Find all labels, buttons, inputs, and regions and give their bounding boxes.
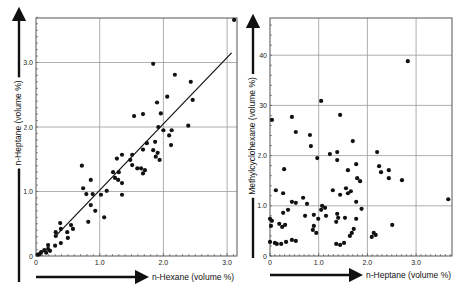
y-tick-label: 30 [259, 102, 267, 109]
data-point [58, 221, 62, 225]
data-point [309, 144, 313, 148]
x-axis-label: n-Hexane (volume %) [152, 272, 234, 282]
x-tick-label: 3.0 [222, 259, 232, 266]
data-point [346, 168, 350, 172]
data-point [154, 155, 158, 159]
x-tick-label: 0 [268, 259, 272, 266]
data-point [54, 230, 58, 234]
y-axis-label: n-Heptane (volume %) [13, 80, 23, 165]
data-point [328, 152, 332, 156]
data-point [153, 140, 157, 144]
data-point [111, 170, 115, 174]
data-point [319, 208, 323, 212]
heptane-methylcyclohexane-scatter: 01.02.03.001.02.03040Methylcyclohexane (… [246, 18, 452, 280]
data-point [59, 241, 63, 245]
data-point [335, 150, 339, 154]
data-point [130, 163, 134, 167]
x-tick-label: 2.0 [159, 259, 169, 266]
data-point [335, 212, 339, 216]
data-point [277, 222, 281, 226]
data-point [290, 200, 294, 204]
data-point [346, 191, 350, 195]
data-point [151, 148, 155, 152]
data-point [65, 230, 69, 234]
x-tick-label: 2.0 [363, 259, 373, 266]
data-point [358, 179, 362, 183]
data-point [232, 18, 236, 22]
data-point [268, 240, 272, 244]
data-point [159, 111, 163, 115]
data-point [173, 73, 177, 77]
data-point [281, 191, 285, 195]
data-point [274, 188, 278, 192]
data-point [379, 170, 383, 174]
y-tick-label: 2.0 [257, 152, 267, 159]
data-point [157, 158, 161, 162]
data-point [139, 166, 143, 170]
data-point [316, 217, 320, 221]
y-tick-label: 2.0 [23, 124, 33, 131]
y-tick-label: 1.0 [257, 202, 267, 209]
data-point [156, 125, 160, 129]
data-point [169, 143, 173, 147]
figure: 01.02.03.001.02.03.0n-Heptane (volume %)… [0, 0, 467, 293]
hexane-heptane-scatter: 01.02.03.001.02.03.0n-Heptane (volume %)… [12, 14, 237, 282]
data-point [324, 214, 328, 218]
data-point [170, 128, 174, 132]
data-point [331, 188, 335, 192]
data-point [128, 158, 132, 162]
x-tick-label: 0 [34, 259, 38, 266]
x-tick-label: 1.0 [95, 259, 105, 266]
data-point [71, 227, 75, 231]
data-point [286, 208, 290, 212]
data-point [370, 235, 374, 239]
data-point [400, 178, 404, 182]
data-point [351, 139, 355, 143]
data-point [145, 141, 149, 145]
data-point [311, 228, 315, 232]
data-point [275, 242, 279, 246]
data-point [120, 181, 124, 185]
data-point [294, 130, 298, 134]
data-point [165, 95, 169, 99]
data-point [270, 118, 274, 122]
data-point [348, 234, 352, 238]
data-point [303, 214, 307, 218]
data-point [186, 124, 190, 128]
data-point [294, 201, 298, 205]
data-point [352, 227, 356, 231]
data-point [156, 151, 160, 155]
data-point [305, 202, 309, 206]
data-point [342, 241, 346, 245]
data-point [161, 128, 165, 132]
data-point [141, 171, 145, 175]
data-point [86, 220, 90, 224]
data-point [189, 80, 193, 84]
data-point [312, 224, 316, 228]
y-tick-label: 0 [29, 253, 33, 260]
data-point [290, 238, 294, 242]
data-point [319, 99, 323, 103]
data-point [375, 150, 379, 154]
data-point [374, 233, 378, 237]
data-point [44, 251, 48, 255]
data-point [314, 231, 318, 235]
data-point [48, 249, 52, 253]
data-point [336, 216, 340, 220]
data-point [69, 223, 73, 227]
data-point [279, 242, 283, 246]
data-point [135, 166, 139, 170]
data-point [312, 213, 316, 217]
data-point [117, 170, 121, 174]
data-point [281, 211, 285, 215]
data-point [105, 189, 109, 193]
data-point [284, 240, 288, 244]
data-point [141, 147, 145, 151]
regression-line [55, 53, 231, 237]
data-point [343, 216, 347, 220]
data-point [46, 243, 50, 247]
data-point [81, 186, 85, 190]
scatter-plot-figure: 01.02.03.001.02.03.0n-Heptane (volume %)… [0, 0, 467, 293]
data-point [354, 217, 358, 221]
data-point [301, 196, 305, 200]
